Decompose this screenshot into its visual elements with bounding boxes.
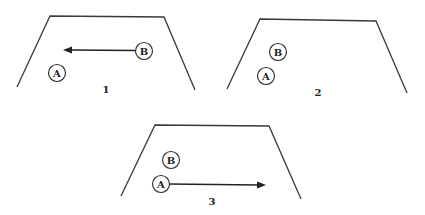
arrow-right bbox=[169, 182, 266, 189]
panel-1: B A 1 bbox=[17, 16, 195, 95]
ball-b: B bbox=[163, 152, 180, 169]
table-outline bbox=[17, 16, 195, 90]
svg-text:B: B bbox=[167, 155, 175, 166]
ball-a: A bbox=[258, 68, 275, 85]
svg-text:A: A bbox=[261, 71, 270, 82]
panel-label: 1 bbox=[103, 84, 110, 95]
collision-diagram: B A 1 B A 2 B A bbox=[0, 0, 425, 215]
svg-text:A: A bbox=[156, 179, 165, 190]
table-outline bbox=[121, 125, 301, 199]
ball-b: B bbox=[136, 43, 153, 60]
panel-label: 3 bbox=[209, 196, 216, 207]
table-outline bbox=[227, 19, 407, 93]
ball-a: A bbox=[153, 176, 170, 193]
svg-text:A: A bbox=[52, 68, 61, 79]
ball-b: B bbox=[270, 44, 287, 61]
arrow-left bbox=[63, 47, 136, 54]
panel-3: B A 3 bbox=[121, 125, 301, 207]
svg-text:B: B bbox=[140, 46, 148, 57]
svg-text:B: B bbox=[274, 47, 282, 58]
ball-a: A bbox=[49, 65, 66, 82]
panel-2: B A 2 bbox=[227, 19, 407, 98]
panel-label: 2 bbox=[315, 87, 322, 98]
